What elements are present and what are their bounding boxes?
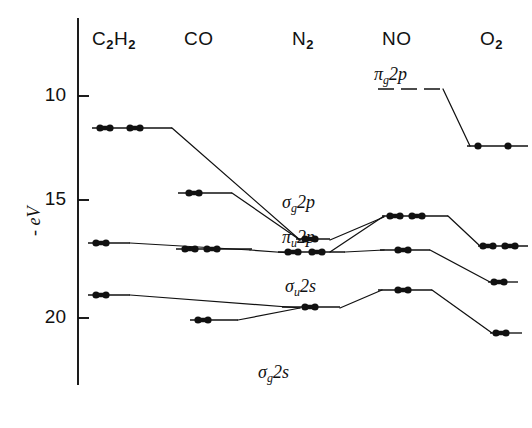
- column-header-n2: N2: [292, 28, 314, 52]
- column-header-c2h2: C2H2: [92, 28, 136, 52]
- greek-sigma: σ: [282, 192, 291, 212]
- axis-tick-label-10: 10: [30, 84, 66, 106]
- formula-o: O: [480, 28, 495, 49]
- link-no-s2s-to-o2-su: [432, 290, 492, 333]
- greek-sigma: σ: [258, 362, 267, 382]
- link-c2h2-su-to-n2-su: [130, 295, 300, 308]
- formula-c: C: [92, 28, 106, 49]
- link-no-pig-to-o2-pig: [443, 89, 470, 146]
- column-header-o2: O2: [480, 28, 503, 52]
- orbital-shell: 2p: [297, 192, 315, 212]
- orbital-shell: 2s: [273, 362, 289, 382]
- formula-no: NO: [382, 28, 412, 49]
- formula-c-sub: 2: [106, 37, 114, 52]
- greek-sigma: σ: [285, 276, 294, 296]
- link-n2-pi-up-to-no-pi: [330, 216, 384, 252]
- orbital-label-pi-u-2p: πu2p: [282, 227, 315, 251]
- energy-axis: [78, 18, 89, 385]
- link-no-sigma2p-to-o2-sigma-g: [430, 250, 490, 282]
- link-c2h2-pi-to-n2-sigma: [172, 128, 300, 240]
- column-header-no: NO: [382, 28, 412, 50]
- tick-text-20: 20: [45, 306, 66, 327]
- formula-n-sub: 2: [306, 37, 314, 52]
- orbital-shell: 2s: [300, 276, 316, 296]
- orbital-label-sigma-u-2s: σu2s: [285, 276, 316, 300]
- orbital-label-pi-g-2p: πg2p: [374, 64, 407, 88]
- electron-dot-o2-pi-g-2p-1-0: [504, 142, 511, 149]
- greek-pi: π: [282, 227, 291, 247]
- formula-h-sub: 2: [128, 37, 136, 52]
- tick-text-15: 15: [45, 188, 66, 209]
- greek-pi: π: [374, 64, 383, 84]
- link-n2-pi-to-no-sigma: [345, 250, 384, 252]
- electron-dot-o2-pi-g-2p-0-0: [474, 142, 481, 149]
- column-header-co: CO: [184, 28, 214, 50]
- link-n2-su-to-no-s2s: [340, 290, 382, 308]
- orbital-shell: 2p: [297, 227, 315, 247]
- axis-tick-label-20: 20: [30, 306, 66, 328]
- orbital-label-sigma-g-2s: σg2s: [258, 362, 289, 386]
- link-no-pi-to-o2-pi-u: [448, 216, 480, 246]
- axis-title-ev: - eV: [24, 207, 45, 236]
- formula-o-sub: 2: [495, 37, 503, 52]
- formula-h: H: [114, 28, 128, 49]
- axis-title-text: - eV: [24, 207, 44, 236]
- tick-text-10: 10: [45, 84, 66, 105]
- formula-n: N: [292, 28, 306, 49]
- link-n2-sigma-to-no-pi: [330, 217, 384, 240]
- formula-co: CO: [184, 28, 214, 49]
- mo-correlation-diagram: C2H2 CO N2 NO O2 10 15 20 - eV πg2p σg2p…: [0, 0, 532, 428]
- orbital-shell: 2p: [389, 64, 407, 84]
- orbital-label-sigma-g-2p: σg2p: [282, 192, 315, 216]
- link-co-s2s-to-n2-su: [238, 308, 300, 320]
